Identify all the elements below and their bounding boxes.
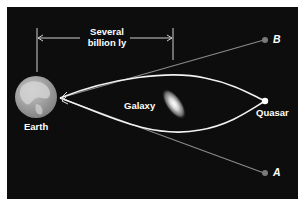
quasar-icon <box>262 98 268 104</box>
distance-label: Several billion ly <box>84 26 130 48</box>
lensed-path-lower <box>60 98 265 132</box>
image-a-label: A <box>273 167 281 178</box>
sightline-to-b <box>60 40 264 98</box>
quasar-label: Quasar <box>256 107 289 118</box>
galaxy-label: Galaxy <box>124 100 155 111</box>
distance-label-line1: Several <box>84 26 130 37</box>
image-b-dot-icon <box>262 37 268 43</box>
galaxy-icon <box>157 85 191 124</box>
image-b-label: B <box>273 34 281 45</box>
earth-label: Earth <box>24 121 48 132</box>
distance-label-line2: billion ly <box>84 37 130 48</box>
image-a-dot-icon <box>262 170 268 176</box>
earth-icon <box>15 76 57 118</box>
